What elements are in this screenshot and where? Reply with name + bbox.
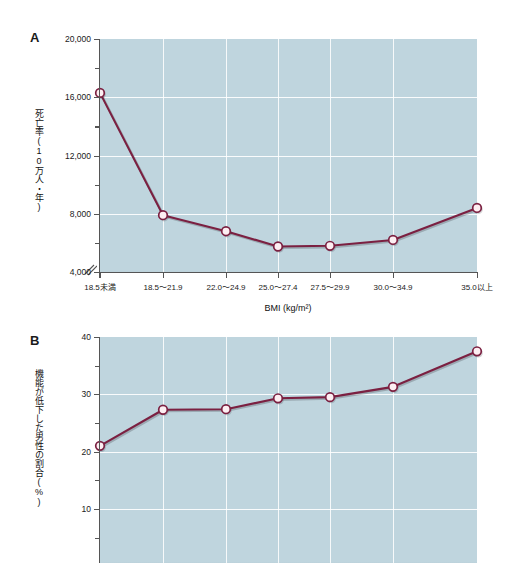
y-axis-tick-label: 20,000	[40, 34, 91, 44]
panel-b-letter: B	[30, 333, 40, 348]
x-axis-tick	[278, 273, 279, 278]
gridline-horizontal	[99, 394, 477, 395]
gridline-vertical	[330, 337, 331, 563]
x-axis-tick-label: 25.0〜27.4	[258, 281, 297, 292]
gridline-horizontal	[99, 97, 477, 98]
gridline-vertical	[226, 337, 227, 563]
gridline-vertical	[163, 337, 164, 563]
y-axis-tick	[94, 394, 99, 395]
panel-b-y-axis	[99, 337, 100, 563]
panel-a-letter: A	[30, 30, 40, 45]
y-axis-minor-tick	[95, 538, 99, 539]
y-axis-minor-tick	[95, 243, 99, 244]
y-axis-tick-label: 8,000	[40, 209, 91, 219]
figure-container: A 死亡率(10万人・年) 18.5未満: 1630018.5〜21.9: 79…	[0, 0, 516, 563]
y-axis-tick	[94, 39, 99, 40]
panel-b: B 機能が低下した男性の割合(%) 18.5未満: 2118.5〜21.9: 2…	[0, 320, 516, 563]
x-axis-tick	[163, 273, 164, 278]
panel-a-plot-area	[99, 39, 477, 272]
y-axis-minor-tick	[95, 126, 99, 127]
y-axis-tick-label: 12,000	[40, 151, 91, 161]
panel-a: A 死亡率(10万人・年) 18.5未満: 1630018.5〜21.9: 79…	[0, 0, 516, 320]
x-axis-tick	[330, 273, 331, 278]
y-axis-tick	[94, 452, 99, 453]
gridline-vertical	[278, 337, 279, 563]
y-axis-minor-tick	[95, 423, 99, 424]
y-axis-tick	[94, 337, 99, 338]
panel-a-y-axis	[99, 39, 100, 278]
x-axis-tick-label: 18.5〜21.9	[143, 281, 182, 292]
y-axis-tick	[94, 214, 99, 215]
x-axis-tick	[477, 273, 478, 278]
gridline-horizontal	[99, 509, 477, 510]
gridline-horizontal	[99, 452, 477, 453]
x-axis-tick-label: 22.0〜24.9	[206, 281, 245, 292]
y-axis-tick-label: 4,000	[40, 267, 91, 277]
y-axis-tick-label: 16,000	[40, 92, 91, 102]
gridline-horizontal	[99, 156, 477, 157]
gridline-vertical	[393, 337, 394, 563]
y-axis-tick-label: 30	[40, 389, 91, 399]
y-axis-minor-tick	[95, 68, 99, 69]
x-axis-tick	[393, 273, 394, 278]
y-axis-tick-label: 20	[40, 447, 91, 457]
y-axis-tick	[94, 97, 99, 98]
y-axis-tick	[94, 272, 99, 273]
y-axis-tick-label: 40	[40, 332, 91, 342]
x-axis-tick	[226, 273, 227, 278]
x-axis-tick	[100, 273, 101, 278]
panel-a-x-axis	[99, 272, 478, 273]
x-axis-tick-label: 30.0〜34.9	[373, 281, 412, 292]
gridline-horizontal	[99, 214, 477, 215]
x-axis-tick-label: 35.0以上	[461, 281, 493, 292]
panel-b-plot-area	[99, 337, 477, 563]
x-axis-tick-label: 18.5未満	[84, 281, 116, 292]
y-axis-minor-tick	[95, 185, 99, 186]
y-axis-minor-tick	[95, 480, 99, 481]
panel-a-x-axis-title: BMI (kg/m²)	[265, 303, 312, 313]
x-axis-tick-label: 27.5〜29.9	[310, 281, 349, 292]
y-axis-tick-label: 10	[40, 504, 91, 514]
y-axis-minor-tick	[95, 366, 99, 367]
y-axis-tick	[94, 156, 99, 157]
y-axis-tick	[94, 509, 99, 510]
